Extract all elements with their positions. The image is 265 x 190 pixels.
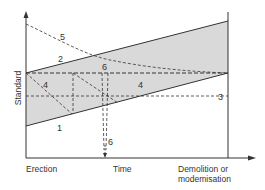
label-3: 3 — [218, 92, 223, 102]
label-6-bottom: 6 — [108, 137, 113, 147]
x-label-time: Time — [113, 164, 132, 174]
label-2: 2 — [58, 54, 63, 64]
x-label-erection: Erection — [26, 164, 57, 174]
label-5: 5 — [60, 32, 65, 42]
x-label-demolition: Demolition or — [178, 164, 228, 174]
label-4-left: 4 — [43, 80, 48, 90]
label-1: 1 — [57, 123, 62, 133]
y-axis-label: Standard — [13, 70, 23, 105]
standard-vs-time-diagram: 5 2 6 4 4 3 1 6 Standard Erection Time D… — [0, 0, 265, 190]
x-axis-arrow-icon — [248, 156, 256, 161]
y-axis-arrow-icon — [24, 11, 29, 18]
x-label-modemisation: modemisation — [178, 174, 231, 184]
label-6-top: 6 — [102, 62, 107, 72]
label-4-right: 4 — [138, 80, 143, 90]
arrow-down-icon — [103, 153, 107, 158]
